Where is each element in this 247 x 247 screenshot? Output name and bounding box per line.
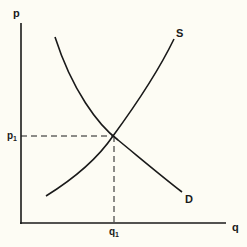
x-axis-label: q [232,221,239,233]
equilibrium-price-label: p1 [7,130,17,142]
y-axis-label: p [13,7,20,19]
supply-label: S [176,27,183,39]
equilibrium-quantity-label: q1 [109,226,119,238]
supply-demand-diagram: p q S D p1 q1 [0,0,247,247]
demand-label: D [185,193,193,205]
